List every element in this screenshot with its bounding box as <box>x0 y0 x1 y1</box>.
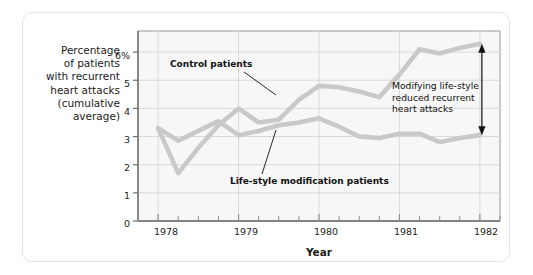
annotation-conclusion: Modifying life-style reduced recurrent h… <box>392 80 479 115</box>
chart-figure: Percentage of patients with recurrent he… <box>0 0 533 275</box>
annotation-control-patients: Control patients <box>170 59 252 70</box>
plot-area <box>0 0 533 275</box>
annotation-lifestyle-patients: Life-style modification patients <box>230 176 389 187</box>
